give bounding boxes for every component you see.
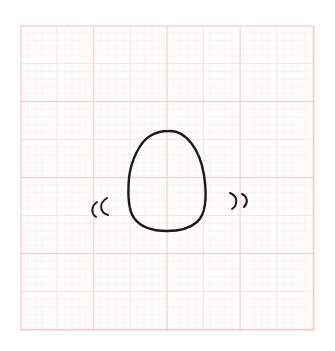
grid	[21, 26, 314, 330]
egg-illustration	[0, 0, 335, 351]
